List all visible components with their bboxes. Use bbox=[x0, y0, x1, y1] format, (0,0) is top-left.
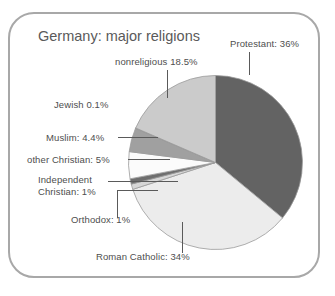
label-other-christian: other Christian: 5% bbox=[27, 154, 110, 165]
label-jewish: Jewish 0.1% bbox=[54, 99, 108, 110]
label-independent-christian-line1: Independent bbox=[38, 174, 106, 186]
label-orthodox: Orthodox: 1% bbox=[71, 214, 130, 225]
label-muslim: Muslim: 4.4% bbox=[46, 132, 104, 143]
label-protestant: Protestant: 36% bbox=[230, 38, 299, 49]
label-nonreligious: nonreligious 18.5% bbox=[115, 56, 198, 67]
pie-slices bbox=[129, 76, 303, 250]
label-independent-christian: Independent Christian: 1% bbox=[38, 174, 106, 198]
label-independent-christian-line2: Christian: 1% bbox=[38, 186, 106, 198]
label-roman-catholic: Roman Catholic: 34% bbox=[96, 251, 190, 262]
chart-page: Germany: major religions Protestant: 36%… bbox=[0, 0, 335, 296]
